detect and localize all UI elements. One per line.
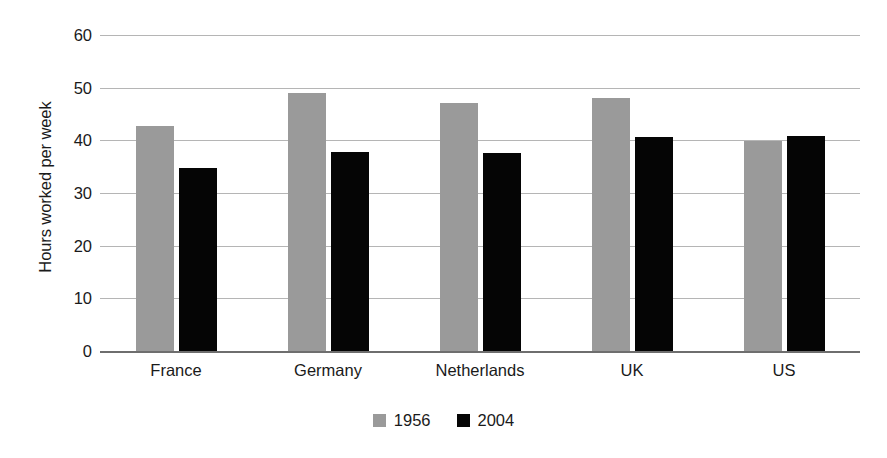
x-axis-tick-labels: FranceGermanyNetherlandsUKUS [100,357,860,385]
y-tick-label: 60 [38,27,92,44]
bar [744,141,782,351]
y-tick-label: 0 [38,343,92,360]
x-tick-label: UK [621,357,644,383]
black-square-swatch [457,414,470,427]
bar [592,98,630,351]
legend-item: 2004 [457,412,515,429]
bar [288,93,326,351]
plot-area [100,35,860,351]
legend-label: 1956 [394,412,431,429]
chart-legend: 19562004 [0,412,887,429]
legend-item: 1956 [373,412,431,429]
legend-label: 2004 [478,412,515,429]
bar [440,103,478,351]
y-tick-label: 30 [38,185,92,202]
x-tick-label: Netherlands [436,357,525,383]
x-tick-label: France [150,357,201,383]
x-tick-label: Germany [294,357,362,383]
y-tick-label: 10 [38,290,92,307]
y-axis-tick-labels: 0102030405060 [34,35,92,351]
x-axis-line [100,351,860,353]
bars-layer [100,35,860,351]
y-tick-label: 40 [38,132,92,149]
bar-chart: Hours worked per week 0102030405060 Fran… [0,0,887,458]
gray-square-swatch [373,414,386,427]
y-tick-label: 50 [38,79,92,96]
bar [136,126,174,351]
bar [179,168,217,351]
bar [787,136,825,351]
x-tick-label: US [773,357,796,383]
bar [635,137,673,351]
y-tick-label: 20 [38,237,92,254]
bar [483,153,521,351]
bar [331,152,369,351]
